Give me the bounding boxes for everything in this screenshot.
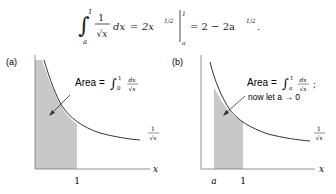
x-label-a: x [153, 164, 158, 174]
curve-label-num-b: 1 [317, 125, 321, 132]
eq-antiderivative: 2x [141, 21, 154, 32]
tick-1-b: 1 [240, 176, 246, 186]
integral-a: ∫ [110, 76, 117, 91]
eq-result-exp: 1/2 [246, 17, 256, 24]
int-upper-b: 1 [290, 75, 294, 81]
eq-equals: = [130, 21, 138, 32]
tick-a-b: a [211, 176, 216, 186]
int-lower-b: a [289, 85, 292, 91]
int-upper-a: 1 [118, 75, 122, 81]
panel-a: Area = ∫ 1 0 dx √x 1 √x x 1 (a) [6, 55, 159, 186]
panel-label-b: (b) [172, 57, 183, 67]
eq-eval-upper: 1 [182, 10, 186, 17]
eq-period: . [257, 21, 260, 32]
panel-b: Area = ∫ 1 a dx √x ; now let a → 0 1 √x … [172, 55, 325, 186]
curve-label-den-b: √x [315, 134, 323, 141]
curve-label-num-a: 1 [151, 125, 155, 132]
note-b: now let a → 0 [248, 92, 300, 102]
arrow-b [226, 96, 245, 113]
eq-eval-lower: a [182, 39, 186, 46]
x-label-b: x [319, 164, 324, 174]
eq-antiderivative-exp: 1/2 [164, 17, 174, 24]
frac-den-a: √x [128, 85, 136, 92]
tick-1-a: 1 [74, 176, 80, 186]
eq-result: = 2 − 2a [190, 21, 235, 32]
semicolon-b: ; [313, 79, 316, 89]
eq-frac-num: 1 [98, 13, 104, 23]
frac-num-a: dx [128, 76, 136, 83]
integral-b: ∫ [282, 76, 289, 91]
area-label-b: Area = [247, 77, 277, 88]
eq-frac-den: √x [97, 29, 108, 39]
frac-num-b: dx [299, 76, 307, 83]
frac-den-b: √x [299, 85, 307, 92]
int-lower-a: 0 [117, 85, 121, 91]
eq-upper-limit: 1 [88, 8, 92, 16]
eq-dx: dx [113, 21, 125, 32]
integral-sign: ∫ [78, 13, 90, 38]
panel-label-a: (a) [6, 57, 17, 67]
shaded-area-b [214, 87, 243, 169]
eq-lower-limit: a [83, 38, 87, 46]
area-label-a: Area = [75, 77, 105, 88]
shaded-area-a [35, 60, 77, 169]
figure: ∫ 1 a 1 √x dx = 2x 1/2 1 a = 2 − 2a 1/2 … [0, 0, 336, 194]
curve-label-den-a: √x [149, 134, 157, 141]
equation: ∫ 1 a 1 √x dx = 2x 1/2 1 a = 2 − 2a 1/2 … [78, 8, 260, 46]
